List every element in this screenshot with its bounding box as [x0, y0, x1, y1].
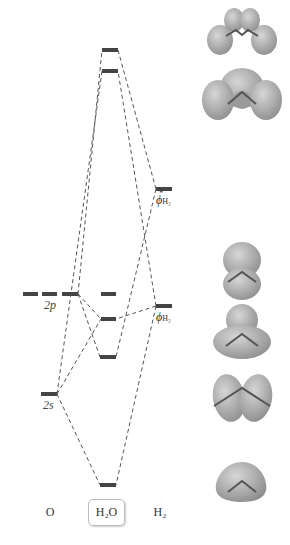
h2-antibonding-label: ϕH₂* [156, 193, 175, 208]
column-label-h2: H₂ [150, 505, 170, 520]
energy-levels [23, 48, 172, 487]
h2-bonding-label: ϕH₂ [156, 310, 171, 325]
h2-bonding-level [156, 304, 172, 308]
o-2s-label: 2s [43, 398, 54, 413]
o-2p-level-2 [42, 292, 57, 296]
correlation-lines [57, 50, 156, 485]
h2o-mo-2 [100, 355, 116, 359]
h2o-mo-5 [102, 69, 118, 73]
column-label-o: O [42, 505, 58, 520]
o-2p-level-3 [62, 292, 78, 296]
h2o-mo-3 [101, 317, 116, 321]
column-label-h2o: H₂O [88, 499, 125, 526]
orbital-image-4 [223, 242, 261, 300]
h2o-mo-1 [100, 483, 116, 487]
orbital-image-5 [202, 68, 282, 120]
o-2s-level [41, 392, 57, 396]
mo-diagram [0, 0, 290, 545]
o-2p-level-1 [23, 292, 38, 296]
orbital-image-2 [209, 372, 276, 425]
orbital-image-6 [207, 8, 277, 55]
orbital-image-1 [216, 462, 267, 502]
h2o-mo-4 [101, 292, 116, 296]
h2o-mo-6 [102, 48, 118, 52]
o-2p-label: 2p [44, 298, 56, 313]
orbital-image-3 [213, 304, 271, 359]
